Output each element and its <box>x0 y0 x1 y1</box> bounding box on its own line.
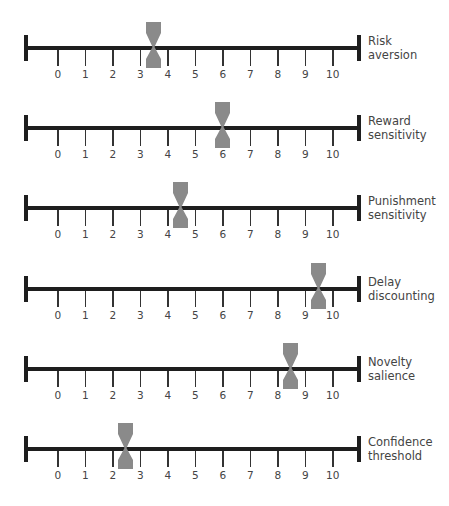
tick-mark <box>305 210 307 226</box>
axis-end-cap-left <box>24 436 28 462</box>
tick-mark <box>112 130 114 146</box>
tick-mark <box>140 130 142 146</box>
tick-mark <box>195 291 197 307</box>
tick-label: 10 <box>323 68 343 80</box>
tick-label: 0 <box>48 68 68 80</box>
tick-mark <box>277 371 279 387</box>
scale-label-line2: threshold <box>368 449 433 463</box>
tick-label: 1 <box>75 228 95 240</box>
tick-mark <box>85 130 87 146</box>
scale-label: Rewardsensitivity <box>368 114 427 142</box>
tick-label: 4 <box>158 148 178 160</box>
tick-label: 4 <box>158 68 178 80</box>
axis-end-cap-right <box>357 356 361 382</box>
scale-axis-line <box>26 126 359 130</box>
tick-label: 0 <box>48 469 68 481</box>
tick-label: 4 <box>158 228 178 240</box>
tick-label: 10 <box>323 309 343 321</box>
tick-mark <box>277 130 279 146</box>
tick-label: 7 <box>240 469 260 481</box>
tick-mark <box>57 130 59 146</box>
tick-label: 7 <box>240 389 260 401</box>
tick-label: 3 <box>130 228 150 240</box>
tick-label: 3 <box>130 389 150 401</box>
tick-label: 4 <box>158 309 178 321</box>
tick-label: 0 <box>48 228 68 240</box>
tick-mark <box>112 50 114 66</box>
tick-mark <box>167 130 169 146</box>
scale-axis-line <box>26 206 359 210</box>
tick-label: 9 <box>295 148 315 160</box>
scale-label-line2: discounting <box>368 289 435 303</box>
tick-mark <box>195 210 197 226</box>
tick-label: 8 <box>268 68 288 80</box>
tick-label: 2 <box>103 148 123 160</box>
tick-label: 10 <box>323 148 343 160</box>
tick-mark <box>277 210 279 226</box>
scale-label-line1: Punishment <box>368 194 436 208</box>
tick-label: 6 <box>213 309 233 321</box>
tick-label: 5 <box>185 309 205 321</box>
tick-mark <box>222 451 224 467</box>
scale-label-line2: sensitivity <box>368 208 436 222</box>
axis-end-cap-right <box>357 115 361 141</box>
tick-mark <box>277 451 279 467</box>
scale-label: Riskaversion <box>368 34 417 62</box>
tick-label: 7 <box>240 148 260 160</box>
scale-axis-line <box>26 46 359 50</box>
axis-end-cap-right <box>357 276 361 302</box>
tick-mark <box>167 291 169 307</box>
tick-label: 3 <box>130 148 150 160</box>
tick-mark <box>332 371 334 387</box>
scale-label: Noveltysalience <box>368 355 415 383</box>
scale-axis-line <box>26 447 359 451</box>
tick-mark <box>250 210 252 226</box>
scale-label-line1: Confidence <box>368 435 433 449</box>
tick-label: 1 <box>75 148 95 160</box>
scale-label-line1: Reward <box>368 114 427 128</box>
scale-label: Confidencethreshold <box>368 435 433 463</box>
tick-mark <box>57 451 59 467</box>
scale-label-line1: Delay <box>368 275 435 289</box>
tick-mark <box>222 371 224 387</box>
scale-axis-line <box>26 367 359 371</box>
tick-mark <box>140 291 142 307</box>
tick-mark <box>140 371 142 387</box>
tick-mark <box>140 451 142 467</box>
hourglass-marker-icon <box>311 263 326 309</box>
tick-mark <box>332 291 334 307</box>
tick-mark <box>222 291 224 307</box>
tick-label: 5 <box>185 389 205 401</box>
scale-label-line1: Novelty <box>368 355 415 369</box>
tick-label: 1 <box>75 309 95 321</box>
tick-label: 0 <box>48 148 68 160</box>
axis-end-cap-left <box>24 195 28 221</box>
tick-mark <box>305 371 307 387</box>
tick-label: 1 <box>75 389 95 401</box>
tick-mark <box>195 50 197 66</box>
scale-label: Delaydiscounting <box>368 275 435 303</box>
hourglass-marker-icon <box>118 423 133 469</box>
scale-label-line2: aversion <box>368 48 417 62</box>
tick-mark <box>112 210 114 226</box>
tick-mark <box>85 291 87 307</box>
tick-label: 9 <box>295 309 315 321</box>
scale-axis-line <box>26 287 359 291</box>
tick-label: 5 <box>185 68 205 80</box>
tick-mark <box>140 50 142 66</box>
tick-label: 8 <box>268 469 288 481</box>
tick-mark <box>85 210 87 226</box>
scale-label-line2: sensitivity <box>368 128 427 142</box>
scale-label-line2: salience <box>368 369 415 383</box>
tick-mark <box>250 371 252 387</box>
tick-mark <box>305 130 307 146</box>
tick-mark <box>167 210 169 226</box>
tick-mark <box>57 210 59 226</box>
tick-mark <box>57 371 59 387</box>
tick-mark <box>305 291 307 307</box>
tick-mark <box>167 371 169 387</box>
tick-label: 9 <box>295 228 315 240</box>
tick-label: 0 <box>48 309 68 321</box>
tick-label: 8 <box>268 148 288 160</box>
tick-mark <box>195 371 197 387</box>
